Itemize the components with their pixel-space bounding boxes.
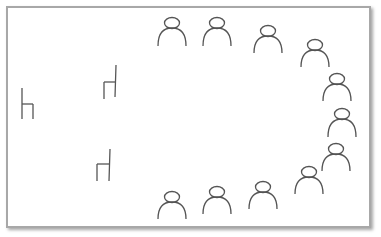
person-head [261,26,276,37]
person-icon [249,182,277,210]
person-head [302,167,317,178]
person-head [330,74,345,85]
person-icon [254,26,282,54]
person-icon [295,167,323,195]
person-icon [323,74,351,102]
chairs-group [22,65,116,181]
person-head [210,18,225,29]
chair-icon [104,65,116,99]
person-head [335,109,350,120]
person-head [329,144,344,155]
seating-diagram [0,0,381,237]
person-body [322,154,350,171]
person-head [308,40,323,51]
person-body [301,50,329,67]
chair-back [115,65,116,97]
person-icon [203,187,231,215]
person-body [158,202,186,219]
chair-icon [97,149,110,181]
person-icon [158,192,186,220]
person-body [203,28,231,46]
person-body [328,119,356,137]
person-icon [322,144,350,172]
person-icon [158,18,186,47]
person-head [165,192,180,203]
person-head [210,187,225,198]
chair-icon [22,88,33,119]
person-head [165,18,180,29]
people-group [158,18,356,220]
person-icon [301,40,329,68]
person-body [295,177,323,194]
person-body [254,36,282,53]
person-body [323,84,351,101]
person-body [249,192,277,209]
person-body [158,28,186,46]
chair-back [109,149,110,181]
person-body [203,197,231,214]
person-head [256,182,271,193]
person-icon [328,109,356,138]
person-icon [203,18,231,47]
